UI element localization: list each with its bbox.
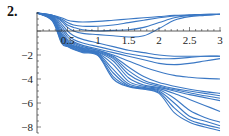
x-tick-label: 1 xyxy=(95,34,101,46)
y-tick-label: −8 xyxy=(21,121,33,133)
x-tick-label: 2 xyxy=(156,34,162,46)
line-chart: 0.511.522.53−2−4−6−8 xyxy=(0,0,229,136)
x-tick-label: 1.5 xyxy=(122,34,136,46)
chart-axes: 0.511.522.53−2−4−6−8 xyxy=(21,12,223,133)
x-tick-label: 2.5 xyxy=(183,34,197,46)
x-tick-label: 0.5 xyxy=(61,34,75,46)
x-tick-label: 3 xyxy=(217,34,223,46)
y-tick-label: −6 xyxy=(21,97,33,109)
y-tick-label: −2 xyxy=(21,49,33,61)
y-tick-label: −4 xyxy=(21,73,33,85)
